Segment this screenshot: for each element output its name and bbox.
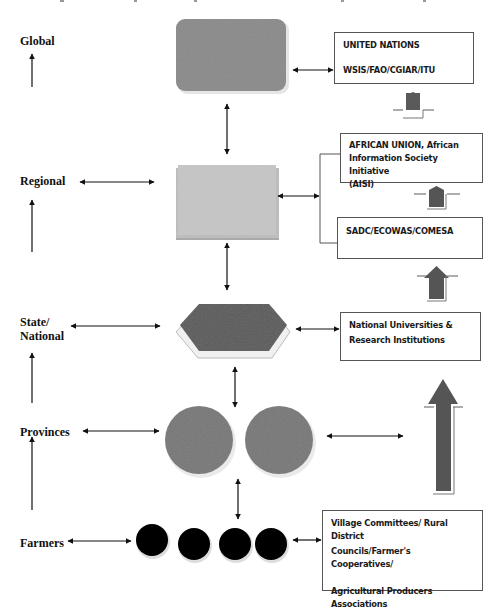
level-label-regional: Regional bbox=[20, 174, 65, 188]
cropped-caption-remnant bbox=[60, 0, 426, 2]
un-line2: WSIS/FAO/CGIAR/ITU bbox=[343, 64, 465, 77]
level-label-farmers: Farmers bbox=[20, 536, 64, 550]
box-village-committees: Village Committees/ Rural District Counc… bbox=[322, 510, 483, 591]
up-arrow-national-to-sadc bbox=[417, 266, 458, 301]
village-line1: Village Committees/ Rural District bbox=[331, 517, 474, 543]
national-line1: National Universities & bbox=[349, 319, 472, 332]
farmer-circle-3 bbox=[219, 528, 251, 560]
box-united-nations: UNITED NATIONS WSIS/FAO/CGIAR/ITU bbox=[334, 32, 474, 84]
un-line1: UNITED NATIONS bbox=[343, 39, 465, 52]
province-circle-2 bbox=[245, 406, 313, 474]
level-label-provinces: Provinces bbox=[20, 425, 70, 439]
box-sadc-ecowas-comesa: SADC/ECOWAS/COMESA bbox=[337, 217, 483, 259]
box-african-union: AFRICAN UNION, African Information Socie… bbox=[340, 133, 483, 183]
farmer-circles bbox=[136, 524, 289, 563]
box-national-universities: National Universities & Research Institu… bbox=[340, 312, 481, 361]
level-label-national-line2: National bbox=[20, 329, 64, 343]
national-line2: Research Institutions bbox=[349, 334, 472, 347]
au-line2: Information Society Initiative bbox=[349, 152, 474, 178]
global-shape bbox=[176, 19, 286, 91]
regional-shape bbox=[178, 165, 276, 235]
up-arrow-sadc-to-au bbox=[393, 92, 434, 118]
sadc-line1: SADC/ECOWAS/COMESA bbox=[346, 225, 474, 238]
village-line2: Councils/Farmer's Cooperatives/ bbox=[331, 545, 474, 571]
au-line3: (AISI) bbox=[349, 178, 474, 191]
national-shape bbox=[180, 304, 287, 351]
farmer-circle-1 bbox=[136, 524, 168, 556]
au-line1: AFRICAN UNION, African bbox=[349, 139, 474, 152]
level-label-state-national: State/ National bbox=[20, 315, 64, 343]
level-label-global: Global bbox=[20, 34, 55, 48]
farmer-circle-2 bbox=[178, 528, 210, 560]
farmer-circle-4 bbox=[255, 528, 287, 560]
village-line3: Agricultural Producers Associations bbox=[331, 585, 474, 611]
province-circle-1 bbox=[165, 406, 233, 474]
level-label-state-line1: State/ bbox=[20, 315, 64, 329]
big-up-arrow bbox=[424, 379, 463, 494]
